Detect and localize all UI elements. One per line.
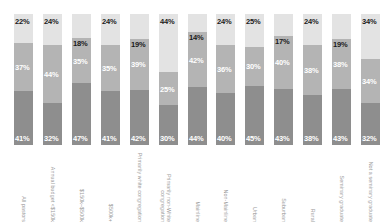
stacked-bar <box>130 14 149 145</box>
stacked-bar <box>159 14 178 145</box>
value-label: 40% <box>275 58 289 67</box>
x-axis-label: Not a seminary graduate <box>368 148 374 222</box>
value-label: 38% <box>304 134 318 142</box>
x-axis-label: Suburban <box>281 148 287 222</box>
value-label: 24% <box>44 17 58 26</box>
stacked-bar <box>245 14 264 145</box>
value-label: 41% <box>15 134 29 142</box>
stacked-bar <box>101 14 120 145</box>
bar-column[interactable]: 25%30%45% <box>245 14 264 145</box>
x-axis-labels: All pastorsAnnual budget <$150k$150k–$50… <box>14 148 380 222</box>
value-label: 14% <box>189 33 203 42</box>
x-axis-label: Rural <box>310 148 316 222</box>
bar-segment-top <box>274 14 293 36</box>
bar-column[interactable]: 34%34%32% <box>361 14 380 145</box>
bar-column[interactable]: 19%39%42% <box>130 14 149 145</box>
value-label: 39% <box>131 60 145 69</box>
value-label: 32% <box>362 134 376 142</box>
x-axis-label-text: Rural <box>310 148 316 222</box>
x-axis-label: $150k–$500k <box>79 148 85 222</box>
stacked-bar-chart: 22%37%41%24%44%32%18%35%47%24%35%41%19%3… <box>0 0 390 223</box>
value-label: 42% <box>189 56 203 65</box>
x-axis-label-text: Primarily white congregation <box>137 148 143 222</box>
x-axis-label-text: Not a seminary graduate <box>368 148 374 222</box>
value-label: 45% <box>246 134 260 142</box>
x-axis-label: Mainline <box>195 148 201 222</box>
bar-column[interactable]: 24%36%40% <box>216 14 235 145</box>
x-axis-label-text: Suburban <box>281 148 287 222</box>
bar-column[interactable]: 14%42%44% <box>188 14 207 145</box>
value-label: 18% <box>73 39 87 48</box>
x-axis-label: Urban <box>252 148 258 222</box>
value-label: 25% <box>246 17 260 26</box>
x-axis-label-text: Urban <box>252 148 258 222</box>
x-axis-label-text: $500k+ <box>108 148 114 222</box>
bar-segment-top <box>72 14 91 38</box>
value-label: 34% <box>362 17 376 26</box>
stacked-bar <box>332 14 351 145</box>
bar-column[interactable]: 24%35%41% <box>101 14 120 145</box>
stacked-bar <box>14 14 33 145</box>
x-axis-label: All pastors <box>21 148 27 222</box>
value-label: 43% <box>275 134 289 142</box>
value-label: 44% <box>44 70 58 79</box>
x-axis-label: Seminary graduate <box>339 148 345 222</box>
value-label: 41% <box>102 134 116 142</box>
value-label: 37% <box>15 63 29 72</box>
x-axis-label: Primarily non-White congregation <box>160 148 172 222</box>
value-label: 24% <box>217 17 231 26</box>
value-label: 32% <box>44 134 58 142</box>
value-label: 36% <box>217 65 231 74</box>
value-label: 25% <box>160 85 174 94</box>
bar-column[interactable]: 17%40%43% <box>274 14 293 145</box>
x-axis-label: Annual budget <$150k <box>50 148 56 222</box>
value-label: 44% <box>189 134 203 142</box>
bar-column[interactable]: 24%38%38% <box>303 14 322 145</box>
bar-segment-top <box>188 14 207 32</box>
stacked-bar <box>274 14 293 145</box>
stacked-bar <box>72 14 91 145</box>
x-axis-label: $500k+ <box>108 148 114 222</box>
value-label: 44% <box>160 17 174 26</box>
value-label: 38% <box>333 60 347 69</box>
value-label: 30% <box>160 134 174 142</box>
value-label: 38% <box>304 66 318 75</box>
value-label: 35% <box>73 57 87 66</box>
bar-column[interactable]: 44%25%30% <box>159 14 178 145</box>
value-label: 42% <box>131 134 145 142</box>
value-label: 24% <box>304 17 318 26</box>
stacked-bar <box>216 14 235 145</box>
stacked-bar <box>303 14 322 145</box>
x-axis-label-text: Mainline <box>195 148 201 222</box>
x-axis-label-text: Seminary graduate <box>339 148 345 222</box>
x-axis-label: Non-Mainline <box>223 148 229 222</box>
value-label: 24% <box>102 17 116 26</box>
value-label: 34% <box>362 77 376 86</box>
x-axis-label-text: All pastors <box>21 148 27 222</box>
value-label: 47% <box>73 134 87 142</box>
x-axis-label-text: Annual budget <$150k <box>50 148 56 222</box>
stacked-bar <box>43 14 62 145</box>
bar-segment-top <box>332 14 351 39</box>
value-label: 30% <box>246 62 260 71</box>
bar-column[interactable]: 22%37%41% <box>14 14 33 145</box>
value-label: 22% <box>15 17 29 26</box>
bar-column[interactable]: 19%38%43% <box>332 14 351 145</box>
x-axis-label: Primarily white congregation <box>137 148 143 222</box>
bar-segment-top <box>130 14 149 39</box>
x-axis-label-text: $150k–$500k <box>79 148 85 222</box>
value-label: 35% <box>102 64 116 73</box>
value-label: 19% <box>333 40 347 49</box>
x-axis-label-text: Primarily non-White congregation <box>160 148 172 222</box>
x-axis-label-text: Non-Mainline <box>223 148 229 222</box>
plot-area: 22%37%41%24%44%32%18%35%47%24%35%41%19%3… <box>14 14 380 145</box>
bar-column[interactable]: 24%44%32% <box>43 14 62 145</box>
value-label: 19% <box>131 40 145 49</box>
value-label: 17% <box>275 37 289 46</box>
bar-column[interactable]: 18%35%47% <box>72 14 91 145</box>
value-label: 43% <box>333 134 347 142</box>
value-label: 40% <box>217 134 231 142</box>
